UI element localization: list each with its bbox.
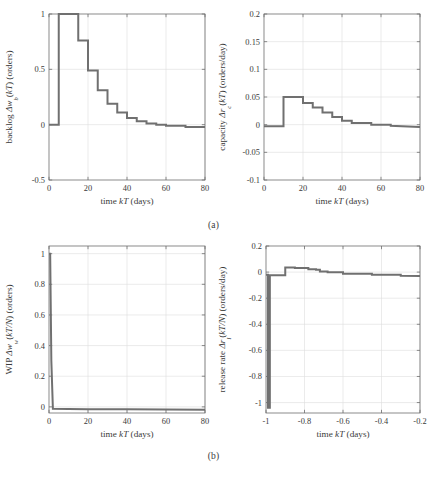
x-tick-label: 80: [415, 184, 423, 193]
y-tick-label: 0.2: [35, 372, 45, 381]
y-tick-label: 1: [41, 250, 45, 259]
y-tick-label: 0.1: [249, 65, 259, 74]
x-tick-label: 40: [123, 184, 131, 193]
chart-capacity-body: 020406080-0.1-0.0500.050.10.150.2time kT…: [217, 10, 424, 206]
y-tick-label: 0.05: [245, 93, 260, 102]
y-tick-label: 0.8: [35, 280, 45, 289]
x-tick-label: 60: [376, 184, 384, 193]
y-tick-label: -1: [255, 399, 262, 408]
x-tick-label: -0.2: [413, 417, 426, 426]
panel-wip: 02040608000.20.40.60.81time kT (days)WIP…: [0, 230, 214, 448]
x-tick-label: 20: [298, 184, 306, 193]
panel-row-b: 02040608000.20.40.60.81time kT (days)WIP…: [0, 230, 427, 448]
y-tick-label: -0.8: [248, 372, 261, 381]
x-tick-label: 60: [162, 184, 170, 193]
y-tick-label: 0: [255, 121, 259, 130]
y-tick-label: 0.4: [35, 342, 46, 351]
y-tick-label: 0: [41, 403, 45, 412]
y-axis-title: WIP Δww(kT/N) (orders): [4, 284, 19, 374]
subcaption-a: (a): [0, 220, 427, 230]
chart-backlog: 020406080-0.500.51time kT (days)backlog …: [0, 0, 214, 215]
x-tick-label: -0.8: [297, 417, 310, 426]
y-tick-label: 0.2: [251, 242, 261, 251]
y-tick-label: -0.5: [32, 176, 45, 185]
x-axis-title: time kT (days): [100, 196, 153, 206]
x-tick-label: 0: [47, 184, 51, 193]
x-tick-label: 40: [123, 417, 131, 426]
y-tick-label: 0.2: [249, 10, 259, 19]
panel-row-a: 020406080-0.500.51time kT (days)backlog …: [0, 0, 427, 215]
y-tick-label: -0.05: [242, 148, 259, 157]
chart-wip: 02040608000.20.40.60.81time kT (days)WIP…: [0, 230, 214, 448]
x-tick-label: 0: [47, 417, 51, 426]
x-axis-title: time kT (days): [316, 429, 369, 439]
x-tick-label: 20: [84, 184, 92, 193]
chart-release-rate-body: -1-0.8-0.6-0.4-0.2-1-0.8-0.6-0.4-0.200.2…: [217, 242, 427, 439]
x-axis-title: time kT (days): [100, 429, 153, 439]
x-tick-label: -0.6: [336, 417, 349, 426]
chart-backlog-body: 020406080-0.500.51time kT (days)backlog …: [4, 10, 209, 206]
x-tick-label: 40: [337, 184, 345, 193]
y-axis-title: backlog Δwb(kT) (orders): [4, 51, 19, 144]
chart-release-rate: -1-0.8-0.6-0.4-0.2-1-0.8-0.6-0.4-0.200.2…: [214, 230, 427, 448]
panel-release-rate: -1-0.8-0.6-0.4-0.2-1-0.8-0.6-0.4-0.200.2…: [214, 230, 427, 448]
y-tick-label: -0.6: [248, 346, 261, 355]
y-tick-label: 0.5: [35, 65, 45, 74]
y-tick-label: 0: [41, 121, 45, 130]
x-tick-label: 80: [201, 184, 209, 193]
y-tick-label: -0.4: [248, 320, 262, 329]
x-tick-label: 20: [84, 417, 92, 426]
y-tick-label: 0: [257, 268, 261, 277]
x-tick-label: 80: [201, 417, 209, 426]
x-tick-label: -0.4: [374, 417, 388, 426]
panel-backlog: 020406080-0.500.51time kT (days)backlog …: [0, 0, 214, 215]
x-tick-label: -1: [262, 417, 269, 426]
chart-capacity: 020406080-0.1-0.0500.050.10.150.2time kT…: [214, 0, 427, 215]
y-tick-label: -0.2: [248, 294, 261, 303]
y-axis-title: release rate Δrl(kT/N) (orders/day): [217, 267, 232, 393]
x-tick-label: 60: [162, 417, 170, 426]
panel-capacity: 020406080-0.1-0.0500.050.10.150.2time kT…: [214, 0, 427, 215]
figure-step-responses: 020406080-0.500.51time kT (days)backlog …: [0, 0, 427, 497]
y-tick-label: 0.15: [245, 38, 260, 47]
chart-wip-body: 02040608000.20.40.60.81time kT (days)WIP…: [4, 246, 209, 439]
y-tick-label: -0.1: [246, 176, 259, 185]
x-axis-title: time kT (days): [315, 196, 368, 206]
y-tick-label: 0.6: [35, 311, 45, 320]
subcaption-b: (b): [0, 451, 427, 461]
x-tick-label: 0: [261, 184, 265, 193]
y-axis-title: capacity Δrc(kT) (orders/day): [217, 43, 232, 150]
y-tick-label: 1: [41, 10, 45, 19]
